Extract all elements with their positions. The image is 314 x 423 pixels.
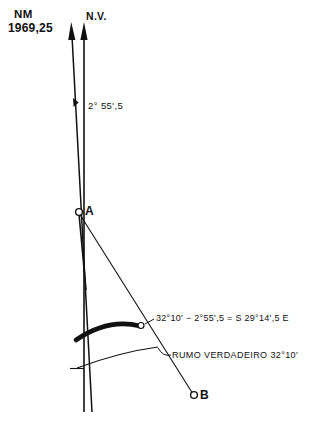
point-a-label: A [85, 204, 94, 218]
point-b-marker [191, 392, 198, 399]
course-line-ab [79, 213, 193, 394]
magnetic-arc-endpoint-circle [138, 323, 144, 329]
magnetic-north-epoch-label: 1969,25 [8, 21, 53, 35]
true-north-arrowhead [80, 22, 87, 40]
magnetic-course-formula-label: 32°10' − 2°55',5 = S 29°14',5 E [156, 313, 289, 323]
course-line [79, 213, 193, 394]
point-a-circle [76, 209, 83, 216]
navigation-diagram: NM 1969,25 N.V. 2° 55',5 A B 32°10' − 2°… [0, 0, 314, 423]
true-north-label: N.V. [86, 10, 107, 22]
point-b-circle [191, 392, 198, 399]
point-a-marker [76, 209, 83, 216]
magnetic-north-arrowhead [68, 22, 75, 40]
magnetic-north-label: NM [14, 8, 33, 20]
declination-label: 2° 55',5 [88, 100, 123, 111]
point-b-label: B [200, 388, 209, 402]
magnetic-course-arc-path [76, 324, 140, 340]
true-course-arc [70, 347, 171, 369]
true-course-label: RUMO VERDADEIRO 32°10' [172, 350, 298, 360]
magnetic-north-line [72, 36, 92, 412]
